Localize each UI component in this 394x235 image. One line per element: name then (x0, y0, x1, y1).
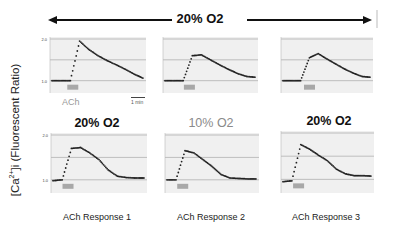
svg-text:2.0: 2.0 (41, 37, 47, 42)
svg-text:1.0: 1.0 (42, 178, 48, 183)
stim-bar (67, 85, 78, 90)
scale-bar (131, 97, 145, 98)
stim-bar (304, 85, 315, 90)
svg-text:1.0: 1.0 (41, 79, 47, 84)
caption-3: ACh Response 3 (276, 212, 376, 222)
plot-bottom-3 (281, 131, 374, 193)
caption-1: ACh Response 1 (47, 212, 147, 222)
bottom-title-2: 10% O2 (161, 116, 261, 130)
bottom-title-1: 20% O2 (47, 116, 147, 130)
scale-bar-label: 1 min (131, 99, 143, 105)
bottom-title-3: 20% O2 (279, 114, 379, 128)
plot-top-2 (163, 37, 258, 93)
stim-bar (293, 183, 304, 188)
plot-top-1: 2.01.0 (41, 37, 146, 93)
svg-text:2.0: 2.0 (42, 133, 48, 138)
plot-bottom-2 (165, 133, 259, 193)
stim-bar (177, 184, 188, 189)
plot-top-3 (281, 37, 373, 93)
stim-bar (184, 85, 195, 90)
stim-label: ACh (62, 97, 80, 107)
caption-2: ACh Response 2 (161, 212, 261, 222)
stim-bar (63, 184, 74, 189)
plot-bottom-1: 2.01.0 (42, 133, 147, 193)
